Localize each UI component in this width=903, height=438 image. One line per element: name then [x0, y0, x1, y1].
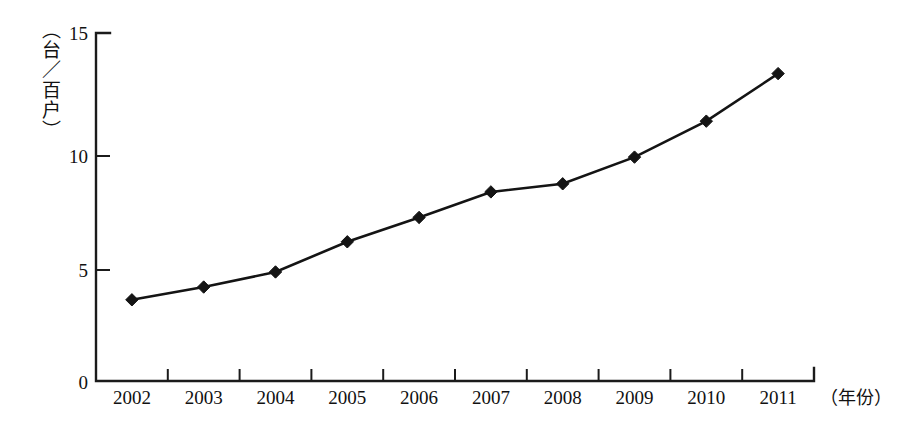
- series-line: [132, 74, 778, 300]
- data-point-2007: [485, 186, 497, 198]
- y-tick-label-15: 15: [69, 23, 88, 44]
- x-tick-label-2008: 2008: [544, 387, 582, 408]
- axis-frame: [96, 33, 814, 381]
- x-axis-caption: （年份）: [820, 388, 892, 408]
- x-tick-label-2009: 2009: [616, 387, 654, 408]
- x-tick-label-2006: 2006: [400, 387, 438, 408]
- x-tick-label-2005: 2005: [328, 387, 366, 408]
- data-point-2009: [628, 151, 640, 163]
- x-tick-label-2010: 2010: [687, 387, 725, 408]
- x-tick-label-2004: 2004: [257, 387, 296, 408]
- line-chart: （台／百户） 15 10 5 0 2002 2003 2004 2005 200…: [0, 0, 903, 438]
- data-point-2006: [413, 211, 425, 223]
- x-tick-label-2002: 2002: [113, 387, 151, 408]
- y-tick-label-0: 0: [79, 372, 89, 393]
- x-tick-label-2011: 2011: [759, 387, 796, 408]
- x-tick-label-2007: 2007: [472, 387, 510, 408]
- y-tick-label-10: 10: [69, 146, 88, 167]
- series-markers: [126, 67, 785, 306]
- data-point-2002: [126, 294, 138, 306]
- data-point-2004: [269, 266, 281, 278]
- data-point-2003: [198, 281, 210, 293]
- y-tick-label-5: 5: [79, 260, 89, 281]
- x-tick-label-2003: 2003: [185, 387, 223, 408]
- chart-plot-area: 15 10 5 0 2002 2003 2004 2005 2006 2007 …: [0, 0, 903, 438]
- data-point-2008: [557, 178, 569, 190]
- data-point-2005: [341, 236, 353, 248]
